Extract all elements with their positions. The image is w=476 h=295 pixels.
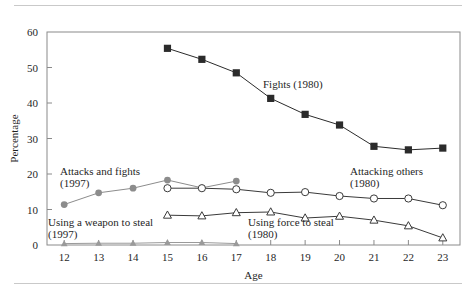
- x-tick-label: 23: [437, 251, 449, 263]
- x-tick-label: 22: [403, 251, 414, 263]
- data-point-open-triangle: [267, 208, 275, 215]
- label-attacks-and-fights: Attacks and fights: [60, 165, 140, 177]
- x-tick-label: 19: [300, 251, 312, 263]
- data-point-open-circle: [439, 202, 446, 209]
- y-tick-label: 60: [27, 26, 39, 38]
- data-point-open-circle: [370, 195, 377, 202]
- axis-layer: 0102030405060121314151617181920212223Age…: [8, 26, 460, 281]
- top-divider-rule: [14, 5, 462, 6]
- data-point-open-triangle: [336, 212, 344, 219]
- data-point-square: [233, 69, 240, 76]
- data-point-open-circle: [233, 186, 240, 193]
- data-point-square: [439, 144, 446, 151]
- label-attacking-others-year: (1980): [350, 177, 380, 190]
- data-point-circle: [130, 185, 137, 192]
- x-tick-label: 16: [196, 251, 208, 263]
- x-tick-label: 12: [59, 251, 70, 263]
- x-tick-label: 21: [368, 251, 379, 263]
- y-tick-label: 50: [27, 62, 39, 74]
- y-axis-title: Percentage: [8, 114, 20, 162]
- y-tick-label: 20: [27, 168, 39, 180]
- x-tick-label: 15: [162, 251, 174, 263]
- x-tick-label: 17: [231, 251, 243, 263]
- x-tick-label: 20: [334, 251, 346, 263]
- y-tick-label: 30: [27, 133, 39, 145]
- data-point-square: [302, 111, 309, 118]
- data-point-open-circle: [405, 195, 412, 202]
- data-point-square: [267, 95, 274, 102]
- annotation-layer: Fights (1980)Attacks and fights(1997)Att…: [48, 78, 423, 241]
- label-using-weapon-to-steal-year: (1997): [48, 228, 78, 241]
- series-2: [164, 185, 447, 209]
- label-fights: Fights (1980): [263, 78, 323, 91]
- data-point-open-circle: [198, 185, 205, 192]
- label-using-weapon-to-steal: Using a weapon to steal: [48, 216, 153, 228]
- data-point-square: [164, 45, 171, 52]
- data-point-open-triangle: [163, 211, 171, 218]
- data-point-circle: [95, 189, 102, 196]
- series-line: [64, 243, 236, 244]
- data-point-circle: [61, 201, 68, 208]
- line-chart: 0102030405060121314151617181920212223Age…: [0, 0, 476, 295]
- data-point-open-circle: [302, 189, 309, 196]
- data-point-open-circle: [336, 192, 343, 199]
- data-point-open-circle: [164, 185, 171, 192]
- chart-figure: 0102030405060121314151617181920212223Age…: [0, 0, 476, 295]
- series-line: [64, 180, 236, 204]
- x-tick-label: 18: [265, 251, 277, 263]
- label-using-force-to-steal: Using force to steal: [248, 216, 334, 228]
- label-attacking-others: Attacking others: [350, 165, 423, 177]
- y-tick-label: 10: [27, 204, 39, 216]
- bottom-divider-rule: [14, 283, 462, 284]
- plot-frame: [47, 32, 460, 245]
- data-point-square: [405, 146, 412, 153]
- y-tick-label: 40: [27, 97, 39, 109]
- x-tick-label: 14: [128, 251, 140, 263]
- data-point-open-circle: [267, 189, 274, 196]
- data-point-open-triangle: [232, 208, 240, 215]
- data-point-square: [370, 143, 377, 150]
- series-line: [167, 48, 442, 150]
- series-0: [164, 45, 447, 154]
- label-using-force-to-steal-year: (1980): [248, 228, 278, 241]
- data-point-square: [198, 56, 205, 63]
- data-point-circle: [233, 178, 240, 185]
- label-attacks-and-fights-year: (1997): [60, 177, 90, 190]
- y-tick-label: 0: [33, 239, 39, 251]
- x-tick-label: 13: [93, 251, 105, 263]
- data-point-circle: [164, 177, 171, 184]
- data-point-square: [336, 121, 343, 128]
- x-axis-title: Age: [244, 269, 262, 281]
